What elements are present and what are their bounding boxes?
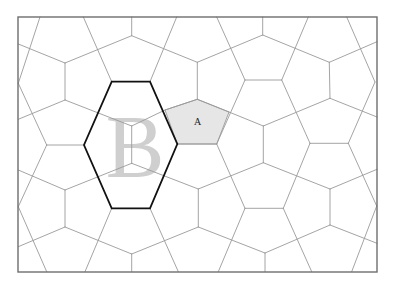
label-a: A — [194, 116, 202, 127]
tiling-diagram: B — [0, 0, 393, 287]
diagram-frame — [18, 17, 377, 272]
label-b: B — [106, 98, 165, 195]
tiling-edges — [18, 17, 377, 272]
